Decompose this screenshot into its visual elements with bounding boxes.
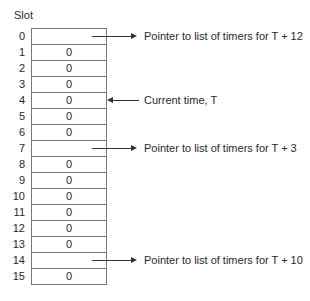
- slot-row: 7: [32, 141, 106, 157]
- slot-index: 1: [7, 45, 25, 60]
- slot-row: 50: [32, 109, 106, 125]
- slot-index: 8: [7, 157, 25, 172]
- slot-index: 14: [7, 253, 25, 268]
- slot-value: 0: [66, 110, 72, 122]
- slot-row: 130: [32, 237, 106, 253]
- slot-index: 11: [7, 205, 25, 220]
- slot-row: 90: [32, 173, 106, 189]
- annotation-slot-14: Pointer to list of timers for T + 10: [144, 254, 303, 266]
- slot-value: 0: [66, 222, 72, 234]
- slot-index: 13: [7, 237, 25, 252]
- slot-index: 15: [7, 269, 25, 284]
- slot-row: 100: [32, 189, 106, 205]
- slot-value: 0: [66, 206, 72, 218]
- slot-row: 0: [32, 29, 106, 45]
- slot-row: 30: [32, 77, 106, 93]
- arrow-right-icon: [131, 145, 137, 151]
- slot-value: 0: [66, 158, 72, 170]
- slot-index: 12: [7, 221, 25, 236]
- slot-row: 10: [32, 45, 106, 61]
- slot-index: 0: [7, 29, 25, 44]
- slot-index: 2: [7, 61, 25, 76]
- slot-value: 0: [66, 62, 72, 74]
- slot-value: 0: [66, 126, 72, 138]
- slot-value: 0: [66, 94, 72, 106]
- slot-value: 0: [66, 238, 72, 250]
- arrow-right-icon: [131, 33, 137, 39]
- slot-index: 10: [7, 189, 25, 204]
- slot-index: 5: [7, 109, 25, 124]
- arrow-right-icon: [131, 257, 137, 263]
- slot-index: 3: [7, 77, 25, 92]
- slot-value: 0: [66, 46, 72, 58]
- slot-index: 4: [7, 93, 25, 108]
- slot-index: 6: [7, 125, 25, 140]
- slot-value: 0: [66, 190, 72, 202]
- annotation-slot-7: Pointer to list of timers for T + 3: [144, 142, 297, 154]
- slot-row: 20: [32, 61, 106, 77]
- slot-value: 0: [66, 270, 72, 282]
- slot-row: 14: [32, 253, 106, 269]
- slot-value: 0: [66, 78, 72, 90]
- timer-wheel-table: 01020304050607809010011012013014150: [31, 28, 107, 285]
- slot-index: 9: [7, 173, 25, 188]
- slot-row: 110: [32, 205, 106, 221]
- slot-row: 60: [32, 125, 106, 141]
- annotation-slot-0: Pointer to list of timers for T + 12: [144, 30, 303, 42]
- slot-row: 120: [32, 221, 106, 237]
- slot-heading: Slot: [14, 9, 33, 21]
- slot-row: 80: [32, 157, 106, 173]
- slot-value: 0: [66, 174, 72, 186]
- slot-row: 40: [32, 93, 106, 109]
- slot-index: 7: [7, 141, 25, 156]
- annotation-slot-4: Current time, T: [144, 94, 217, 106]
- slot-row: 150: [32, 269, 106, 285]
